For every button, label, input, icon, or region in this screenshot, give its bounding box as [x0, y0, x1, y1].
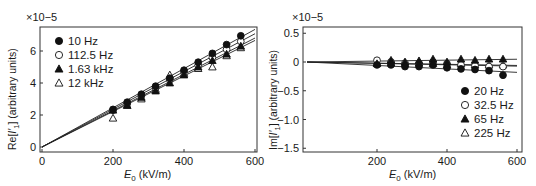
legend-marker-icon	[55, 51, 62, 58]
legend-label: 10 Hz	[68, 35, 98, 47]
data-point	[499, 55, 506, 62]
multiplier-label: ×10−5	[292, 11, 323, 23]
y-tick-label: 0	[293, 56, 299, 68]
data-point	[181, 67, 188, 74]
chart-imaginary-part: ×10−5 2004006000.50−0.5−1.0−1.5 20 Hz32.…	[268, 0, 536, 186]
chart-real-part-svg: ×10−5 02004006000246 10 Hz112.5 Hz1.63 k…	[0, 0, 268, 186]
legend-label: 32.5 Hz	[474, 99, 514, 111]
legend-marker-icon	[55, 37, 62, 44]
data-point	[430, 61, 437, 68]
data-point	[138, 91, 145, 98]
data-point	[458, 66, 465, 73]
data-point	[500, 72, 507, 79]
data-point	[402, 63, 409, 70]
data-point	[152, 83, 159, 90]
x-tick-label: 400	[438, 155, 456, 167]
y-axis-label: Re[I′1] (arbitrary units)	[6, 48, 21, 150]
legend-marker-icon	[55, 79, 63, 86]
data-point	[457, 55, 464, 62]
data-point	[237, 32, 244, 39]
data-point	[388, 61, 395, 68]
data-point	[110, 106, 117, 113]
data-point	[485, 55, 492, 62]
axis-ticks: 02004006000246	[30, 45, 264, 167]
legend: 10 Hz112.5 Hz1.63 kHz12 kHz	[55, 35, 114, 89]
x-tick-label: 0	[39, 155, 45, 167]
legend-label: 12 kHz	[68, 77, 104, 89]
chart-real-part: ×10−5 02004006000246 10 Hz112.5 Hz1.63 k…	[0, 0, 268, 186]
x-axis-label: E0 (kV/m)	[124, 168, 171, 183]
data-point	[472, 66, 479, 73]
y-tick-label: 0	[30, 141, 36, 153]
legend-marker-icon	[461, 87, 468, 94]
data-point	[444, 64, 451, 71]
legend-marker-icon	[461, 115, 469, 122]
chart-imaginary-part-svg: ×10−5 2004006000.50−0.5−1.0−1.5 20 Hz32.…	[268, 0, 536, 186]
x-tick-label: 600	[508, 155, 526, 167]
y-tick-label: −0.5	[277, 85, 299, 97]
data-point	[209, 63, 216, 70]
x-axis-label: E0 (kV/m)	[389, 168, 436, 183]
data-points	[109, 32, 244, 121]
x-tick-label: 200	[368, 155, 386, 167]
data-point	[223, 41, 230, 48]
y-tick-label: −1.0	[277, 114, 299, 126]
legend-marker-icon	[55, 65, 63, 72]
data-point	[109, 114, 116, 121]
data-point	[500, 63, 507, 70]
legend-label: 112.5 Hz	[68, 49, 113, 61]
data-point	[486, 67, 493, 74]
data-point	[429, 55, 436, 62]
y-axis-label: Im[I′1] (arbitrary units)	[268, 50, 282, 150]
y-tick-label: 4	[30, 77, 36, 89]
y-tick-label: 6	[30, 45, 36, 57]
y-tick-label: −1.5	[277, 142, 299, 154]
axis-ticks: 2004006000.50−0.5−1.0−1.5	[277, 27, 526, 167]
data-points	[373, 55, 506, 78]
x-tick-label: 600	[246, 155, 264, 167]
legend: 20 Hz32.5 Hz65 Hz225 Hz	[461, 85, 514, 139]
x-tick-label: 200	[104, 155, 122, 167]
data-point	[209, 50, 216, 57]
data-point	[195, 59, 202, 66]
x-tick-label: 400	[175, 155, 193, 167]
y-tick-label: 2	[30, 109, 36, 121]
data-point	[124, 99, 131, 106]
data-point	[166, 75, 173, 82]
multiplier-label: ×10−5	[26, 11, 57, 23]
data-point	[416, 63, 423, 70]
legend-label: 65 Hz	[474, 113, 504, 125]
data-point	[374, 61, 381, 68]
legend-label: 225 Hz	[474, 127, 511, 139]
legend-label: 20 Hz	[474, 85, 504, 97]
legend-marker-icon	[461, 101, 468, 108]
legend-marker-icon	[461, 129, 469, 136]
y-tick-label: 0.5	[284, 27, 299, 39]
legend-label: 1.63 kHz	[68, 63, 114, 75]
